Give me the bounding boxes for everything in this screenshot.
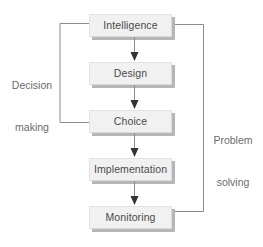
flow-arrow-down-icon (129, 133, 140, 158)
process-node-label: Monitoring (105, 212, 155, 223)
process-flow-diagram: Intelligence Design Choice Implementatio… (0, 0, 263, 247)
process-node-label: Choice (114, 116, 147, 127)
loop-label-line-2: making (6, 120, 58, 134)
loop-label-line-1: Problem (206, 133, 260, 147)
flow-arrow-down-icon (129, 85, 140, 110)
loop-label-problem-solving: Problem solving (206, 105, 260, 217)
process-node-label: Implementation (94, 164, 167, 175)
loop-label-decision-making: Decision making (6, 50, 58, 162)
process-node-design[interactable]: Design (89, 62, 172, 85)
process-node-label: Intelligence (103, 20, 157, 31)
flow-arrow-down-icon (129, 37, 140, 62)
process-node-choice[interactable]: Choice (89, 110, 172, 133)
problem-solving-loop-connector (168, 18, 208, 218)
process-node-implementation[interactable]: Implementation (89, 158, 172, 181)
process-node-label: Design (114, 68, 147, 79)
loop-label-line-2: solving (206, 175, 260, 189)
process-node-intelligence[interactable]: Intelligence (89, 14, 172, 37)
flow-arrow-down-icon (129, 181, 140, 206)
process-node-monitoring[interactable]: Monitoring (89, 206, 172, 229)
loop-label-line-1: Decision (6, 78, 58, 92)
